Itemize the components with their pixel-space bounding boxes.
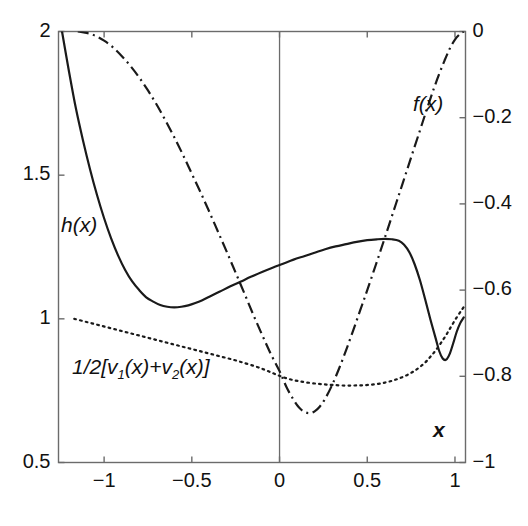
plot-canvas [0,0,528,526]
left-tick-label: 2 [39,19,50,42]
bottom-tick-label: −1 [74,469,134,492]
right-tick-label: −0.2 [473,105,512,128]
v-label-part-1: 1/2[v [72,355,118,378]
axes-frame [59,32,466,463]
right-tick-label: −0.8 [473,363,512,386]
v-label-part-3: (x)] [179,355,209,378]
plot-frame [59,32,466,463]
figure-container: 21.510.5 0−0.2−0.4−0.6−0.8−1 −1−0.500.51… [0,0,528,526]
left-tick-label: 1.5 [23,162,51,185]
v-label-subscript-1: 1 [118,367,125,382]
bottom-tick-label: 0 [250,469,310,492]
bottom-tick-label: 1 [425,469,485,492]
curve-label-v-average: 1/2[v1(x)+v2(x)] [72,355,210,382]
curve-label-h: h(x) [61,213,97,237]
right-tick-label: 0 [473,19,484,42]
v-label-part-2: (x)+v [125,355,172,378]
right-tick-label: −0.6 [473,277,512,300]
axis-ticks [59,32,466,463]
curve-label-f: f(x) [413,92,443,116]
bottom-tick-label: 0.5 [337,469,397,492]
left-tick-label: 0.5 [23,450,51,473]
right-tick-label: −0.4 [473,191,512,214]
curve-solid [62,32,464,360]
bottom-tick-label: −0.5 [162,469,222,492]
x-axis-title: x [433,418,445,442]
left-tick-label: 1 [39,306,50,329]
